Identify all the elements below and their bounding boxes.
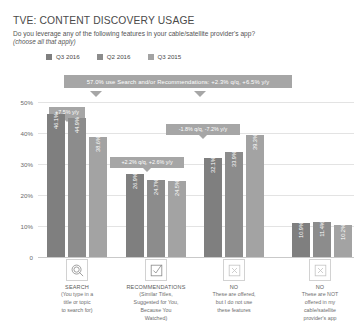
gridline-baseline: 0 xyxy=(38,257,354,258)
x-category-desc: (Similar Titles, Suggested for You, Beca… xyxy=(116,291,196,323)
x-category-desc-line: Because You xyxy=(116,307,196,315)
summary-banner-text: 57.0% use Search and/or Recommendations:… xyxy=(87,79,270,85)
bar-no-not-offered-q3-2016[interactable]: 10.9% xyxy=(292,223,310,257)
bar-value-label: 33.9% xyxy=(231,151,237,167)
header: TVE: CONTENT DISCOVERY USAGE Do you leve… xyxy=(13,15,353,45)
legend-item-q2-2016[interactable]: Q2 2016 xyxy=(97,53,131,60)
ytick-label-40: 40% xyxy=(21,130,33,137)
x-category-name: NO xyxy=(286,284,354,290)
slide-root: TVE: CONTENT DISCOVERY USAGE Do you leve… xyxy=(0,0,362,334)
x-category-desc-line: title or topic xyxy=(45,299,109,307)
ytick-label-0: 0 xyxy=(30,254,33,261)
x-category-desc-line: to search for) xyxy=(45,307,109,315)
x-category-desc-line: Suggested for You, xyxy=(116,299,196,307)
x-category-desc-line: These are offered, xyxy=(198,291,270,299)
bar-search-q3-2016[interactable]: 46.1% xyxy=(47,114,65,257)
bar-value-label: 24.7% xyxy=(153,179,159,195)
legend-label: Q2 2016 xyxy=(107,53,131,60)
summary-banner-tail-right xyxy=(194,91,206,97)
x-axis-categories: SEARCH (You type in a title or topic to … xyxy=(38,259,354,333)
page-title: TVE: CONTENT DISCOVERY USAGE xyxy=(13,15,353,26)
bar-value-label: 39.3% xyxy=(252,134,258,150)
x-category-desc-line: Watched) xyxy=(116,315,196,323)
bar-no-not-offered-q3-2015[interactable]: 10.2% xyxy=(334,225,352,257)
x-box-icon xyxy=(223,259,245,281)
annotation-tail xyxy=(199,135,207,139)
x-category-desc-line: cable/satellite xyxy=(286,307,354,315)
checked-box-icon xyxy=(145,259,167,281)
bar-value-label: 38.6% xyxy=(95,136,101,152)
summary-banner: 57.0% use Search and/or Recommendations:… xyxy=(64,75,292,88)
x-category-desc-line: these features xyxy=(198,307,270,315)
x-category-desc: (You type in a title or topic to search … xyxy=(45,291,109,315)
x-category-desc-line: provider's app xyxy=(286,315,354,323)
legend-swatch xyxy=(148,54,154,60)
x-category-desc-line: (You type in a xyxy=(45,291,109,299)
survey-question: Do you leverage any of the following fea… xyxy=(13,30,353,37)
bar-recommendations-q2-2016[interactable]: 24.7% xyxy=(147,180,165,257)
magnifier-icon xyxy=(66,259,88,281)
x-category-desc-line: but I do not use xyxy=(198,299,270,307)
annotation-callout-no-not-used: -1.8% q/q, -7.2% y/y xyxy=(166,124,240,135)
x-category-no-not-used: NO These are offered, but I do not use t… xyxy=(198,259,270,315)
bar-value-label: 26.9% xyxy=(132,173,138,189)
ytick-label-50: 50% xyxy=(21,99,33,106)
x-category-no-not-offered: NO These are NOT offered in my cable/sat… xyxy=(286,259,354,323)
chart-plot-area: 50% 40% 30% 20% 10% 0 57.0% use Search a… xyxy=(38,72,354,257)
bar-search-q3-2015[interactable]: 38.6% xyxy=(89,137,107,257)
x-category-desc-line: These are NOT xyxy=(286,291,354,299)
chart-legend: Q3 2016 Q2 2016 Q3 2015 xyxy=(46,53,181,60)
x-category-desc-line: (Similar Titles, xyxy=(116,291,196,299)
summary-banner-tail-left xyxy=(90,91,102,97)
gridline-50: 50% xyxy=(38,102,354,103)
bar-value-label: 32.1% xyxy=(210,157,216,173)
bar-value-label: 44.9% xyxy=(74,117,80,133)
bar-value-label: 10.2% xyxy=(340,224,346,240)
x-category-recommendations: RECOMMENDATIONS (Similar Titles, Suggest… xyxy=(116,259,196,323)
legend-swatch xyxy=(97,54,103,60)
legend-item-q3-2016[interactable]: Q3 2016 xyxy=(46,53,80,60)
ytick-label-10: 10% xyxy=(21,223,33,230)
x-box-icon xyxy=(309,259,331,281)
bar-no-not-used-q3-2015[interactable]: 39.3% xyxy=(246,135,264,257)
legend-item-q3-2015[interactable]: Q3 2015 xyxy=(148,53,182,60)
annotation-tail xyxy=(143,168,151,172)
ytick-label-30: 30% xyxy=(21,161,33,168)
x-category-desc: These are offered, but I do not use thes… xyxy=(198,291,270,315)
x-category-desc: These are NOT offered in my cable/satell… xyxy=(286,291,354,323)
bar-no-not-used-q3-2016[interactable]: 32.1% xyxy=(204,158,222,257)
survey-instruction: (choose all that apply) xyxy=(13,38,353,45)
legend-label: Q3 2016 xyxy=(56,53,80,60)
x-category-name: SEARCH xyxy=(45,284,109,290)
bar-recommendations-q3-2016[interactable]: 26.9% xyxy=(126,174,144,257)
bar-recommendations-q3-2015[interactable]: 24.5% xyxy=(168,181,186,257)
x-category-name: NO xyxy=(198,284,270,290)
bar-no-not-offered-q2-2016[interactable]: 11.4% xyxy=(313,222,331,257)
bar-value-label: 11.4% xyxy=(319,221,325,236)
annotation-text: -1.8% q/q, -7.2% y/y xyxy=(179,126,228,132)
bar-search-q2-2016[interactable]: 44.9% xyxy=(68,118,86,257)
legend-swatch xyxy=(46,54,52,60)
x-category-name: RECOMMENDATIONS xyxy=(116,284,196,290)
annotation-callout-recommendations: +2.2% q/q, +2.6% y/y xyxy=(110,157,184,168)
bar-value-label: 10.9% xyxy=(298,222,304,238)
bar-value-label: 46.1% xyxy=(53,113,59,129)
ytick-label-20: 20% xyxy=(21,192,33,199)
legend-label: Q3 2015 xyxy=(158,53,182,60)
annotation-text: +2.2% q/q, +2.6% y/y xyxy=(121,159,172,165)
x-category-desc-line: offered in my xyxy=(286,299,354,307)
bar-no-not-used-q2-2016[interactable]: 33.9% xyxy=(225,152,243,257)
x-category-search: SEARCH (You type in a title or topic to … xyxy=(45,259,109,315)
bar-value-label: 24.5% xyxy=(174,180,180,196)
